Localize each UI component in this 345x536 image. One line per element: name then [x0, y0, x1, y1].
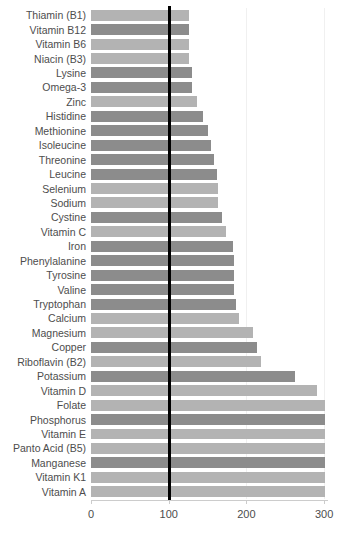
bar-row: [91, 212, 328, 223]
bar: [91, 197, 218, 208]
category-label: Iron: [0, 241, 86, 252]
x-tick: [91, 500, 92, 504]
category-label: Valine: [0, 285, 86, 296]
category-label: Histidine: [0, 111, 86, 122]
bar-row: [91, 96, 328, 107]
bar: [91, 111, 203, 122]
bar-row: [91, 24, 328, 35]
x-tick-label: 100: [160, 508, 178, 520]
plot-area: [91, 8, 328, 499]
category-label: Leucine: [0, 169, 86, 180]
bar-row: [91, 140, 328, 151]
bar: [91, 486, 325, 497]
bar: [91, 371, 295, 382]
bar: [91, 457, 325, 468]
bar: [91, 24, 189, 35]
bar-row: [91, 457, 328, 468]
bar-row: [91, 255, 328, 266]
category-label: Manganese: [0, 458, 86, 469]
category-label: Vitamin E: [0, 429, 86, 440]
bar-row: [91, 472, 328, 483]
category-label: Vitamin B6: [0, 39, 86, 50]
bar-row: [91, 284, 328, 295]
category-label: Panto Acid (B5): [0, 443, 86, 454]
bar-row: [91, 39, 328, 50]
bar-chart: Thiamin (B1)Vitamin B12Vitamin B6Niacin …: [0, 0, 345, 536]
bar-row: [91, 82, 328, 93]
bar: [91, 226, 226, 237]
bar: [91, 169, 217, 180]
bar: [91, 125, 208, 136]
category-label: Isoleucine: [0, 140, 86, 151]
x-tick-label: 300: [315, 508, 333, 520]
bar-row: [91, 197, 328, 208]
category-label: Vitamin D: [0, 386, 86, 397]
bar: [91, 313, 239, 324]
bar-row: [91, 125, 328, 136]
bar-row: [91, 443, 328, 454]
category-label: Folate: [0, 400, 86, 411]
bar: [91, 10, 189, 21]
category-axis-labels: Thiamin (B1)Vitamin B12Vitamin B6Niacin …: [0, 8, 86, 499]
category-label: Vitamin A: [0, 487, 86, 498]
category-label: Potassium: [0, 371, 86, 382]
x-tick: [169, 500, 170, 504]
bar: [91, 140, 211, 151]
bar-row: [91, 299, 328, 310]
bar: [91, 53, 189, 64]
bar-row: [91, 400, 328, 411]
bar: [91, 284, 234, 295]
bar: [91, 342, 257, 353]
category-label: Cystine: [0, 212, 86, 223]
category-label: Vitamin B12: [0, 25, 86, 36]
x-tick: [246, 500, 247, 504]
bar-row: [91, 241, 328, 252]
bar: [91, 299, 236, 310]
bar: [91, 183, 218, 194]
bar: [91, 443, 325, 454]
bar-row: [91, 10, 328, 21]
x-axis-line: [91, 500, 328, 501]
bar: [91, 270, 234, 281]
bar-row: [91, 371, 328, 382]
bar-row: [91, 226, 328, 237]
bar-row: [91, 53, 328, 64]
bar: [91, 67, 192, 78]
reference-line-100: [168, 6, 171, 501]
bar: [91, 327, 253, 338]
bar: [91, 154, 214, 165]
bar-row: [91, 327, 328, 338]
bar-row: [91, 154, 328, 165]
category-label: Magnesium: [0, 328, 86, 339]
category-label: Niacin (B3): [0, 54, 86, 65]
category-label: Sodium: [0, 198, 86, 209]
bar: [91, 400, 325, 411]
category-label: Tryptophan: [0, 299, 86, 310]
bar-row: [91, 183, 328, 194]
bar: [91, 96, 197, 107]
bar-row: [91, 429, 328, 440]
bar: [91, 414, 325, 425]
category-label: Selenium: [0, 184, 86, 195]
bar-rows: [91, 8, 328, 499]
category-label: Lysine: [0, 68, 86, 79]
bar: [91, 472, 325, 483]
category-label: Phosphorus: [0, 415, 86, 426]
category-label: Tyrosine: [0, 270, 86, 281]
bar-row: [91, 342, 328, 353]
category-label: Methionine: [0, 126, 86, 137]
bar: [91, 356, 261, 367]
x-tick-label: 200: [237, 508, 255, 520]
category-label: Calcium: [0, 313, 86, 324]
category-label: Vitamin C: [0, 227, 86, 238]
bar-row: [91, 356, 328, 367]
bar: [91, 385, 317, 396]
bar: [91, 82, 192, 93]
category-label: Thiamin (B1): [0, 10, 86, 21]
category-label: Phenylalanine: [0, 256, 86, 267]
bar: [91, 429, 325, 440]
category-label: Vitamin K1: [0, 472, 86, 483]
category-label: Zinc: [0, 97, 86, 108]
bar-row: [91, 67, 328, 78]
bar-row: [91, 414, 328, 425]
